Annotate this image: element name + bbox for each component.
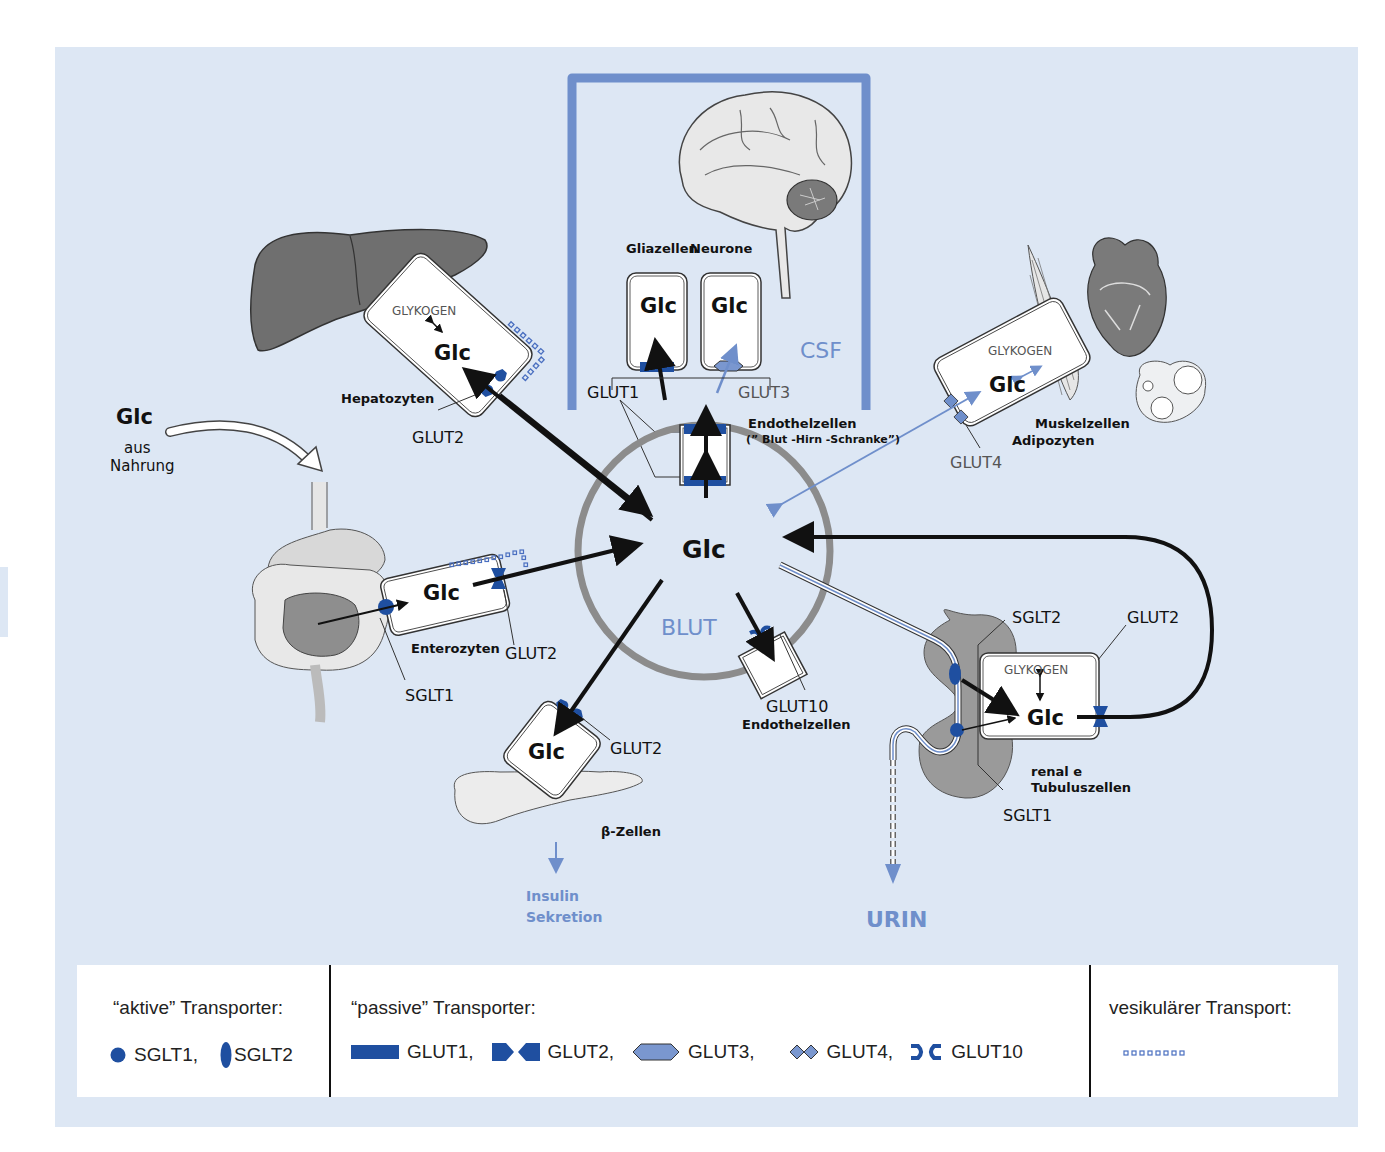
dotted-squares-icon: [1123, 1050, 1189, 1056]
bowtie-icon: [492, 1043, 540, 1061]
enterocyte-label: Enterozyten: [411, 642, 500, 655]
adipocyte-label: Adipozyten: [1012, 434, 1094, 447]
neuron-glucose-label: Glc: [711, 296, 748, 317]
glia-glucose-label: Glc: [640, 296, 677, 317]
muscle-glycogen-label: GLYKOGEN: [988, 345, 1052, 357]
glia-label: Gliazellen: [626, 242, 698, 255]
legend-vesicular-section: vesikulärer Transport:: [1091, 965, 1338, 1097]
liver-glucose-label: Glc: [434, 343, 471, 364]
renal-cell-label-line2: Tubuluszellen: [1031, 781, 1131, 794]
neuron-label: Neurone: [690, 242, 752, 255]
muscle-glucose-label: Glc: [989, 375, 1026, 396]
legend-box: “aktive” Transporter: SGLT1, SGLT2 “pass…: [77, 965, 1338, 1097]
food-source-line1: aus: [124, 441, 151, 456]
glut3-label: GLUT3: [738, 385, 790, 401]
sglt1-transporter-icon: [950, 723, 964, 737]
endothel-label: Endothelzellen: [748, 417, 856, 430]
glut4-label: GLUT4: [950, 455, 1002, 471]
pancreas-glut2-label: GLUT2: [610, 741, 662, 757]
muscle-adipocyte-cell: [931, 295, 1094, 430]
legend-vesicular-row: [1123, 1050, 1189, 1056]
legend-passive-section: “passive” Transporter: GLUT1, GLUT2, GLU…: [331, 965, 1089, 1097]
enterocyte-sglt1-label: SGLT1: [405, 688, 454, 704]
legend-passive-title: “passive” Transporter:: [351, 997, 536, 1019]
liver-glycogen-label: GLYKOGEN: [392, 305, 456, 317]
rectangle-icon: [351, 1045, 399, 1059]
ellipse-icon: [220, 1041, 232, 1069]
beta-cell-glucose-label: Glc: [528, 742, 565, 763]
muscle-cell-label: Muskelzellen: [1035, 417, 1130, 430]
legend-active-row: SGLT1, SGLT2: [110, 1041, 315, 1069]
legend-active-section: “aktive” Transporter: SGLT1, SGLT2: [77, 965, 329, 1097]
legend-vesicular-title: vesikulärer Transport:: [1109, 997, 1292, 1019]
glut10-label: GLUT10: [766, 699, 828, 715]
glut10-endothel-label: Endothelzellen: [742, 718, 850, 731]
glut1-label: GLUT1: [587, 385, 639, 401]
legend-item-glut3: GLUT3,: [632, 1041, 755, 1063]
legend-item-glut2: GLUT2,: [492, 1041, 615, 1063]
double-diamond-icon: [789, 1044, 819, 1060]
kidney-glucose-label: Glc: [1027, 708, 1064, 729]
brain-illustration-icon: [679, 92, 851, 298]
csf-label: CSF: [800, 340, 842, 362]
blood-glucose-label: Glc: [682, 537, 726, 562]
glut10-endothelial-cell: [739, 632, 807, 699]
kidney-sglt2-label: SGLT2: [1012, 610, 1061, 626]
bracket-pair-icon: [909, 1043, 943, 1061]
beta-cell-label: β-Zellen: [601, 825, 661, 838]
legend-item-glut4: GLUT4,: [789, 1041, 894, 1063]
legend-item-glut10: GLUT10: [909, 1041, 1023, 1063]
legend-item-sglt2: SGLT2: [220, 1041, 293, 1069]
enterocyte-glut2-label: GLUT2: [505, 646, 557, 662]
renal-cell-label-line1: renal e: [1031, 765, 1082, 778]
enterocyte-glucose-label: Glc: [423, 583, 460, 604]
circle-icon: [110, 1047, 126, 1063]
legend-passive-row: GLUT1, GLUT2, GLUT3, GLUT4, GLUT10: [351, 1041, 1045, 1063]
sglt2-transporter-icon: [949, 663, 961, 685]
legend-item-sglt1: SGLT1,: [110, 1044, 198, 1066]
insulin-label-line1: Insulin: [526, 889, 579, 903]
legend-active-title: “aktive” Transporter:: [113, 997, 283, 1019]
neuron-cell: [701, 273, 761, 393]
glut1-transporter-icon: [640, 362, 674, 372]
kidney-glut2-label: GLUT2: [1127, 610, 1179, 626]
liver-glut2-label: GLUT2: [412, 430, 464, 446]
bbb-label: (” Blut -Hirn -Schranke”): [746, 434, 900, 445]
urine-label: URIN: [866, 909, 927, 931]
food-source-line2: Nahrung: [110, 459, 175, 474]
kidney-sglt1-label: SGLT1: [1003, 808, 1052, 824]
hepatocyte-label: Hepatozyten: [341, 392, 434, 405]
adipocyte-illustration-icon: [1136, 361, 1206, 422]
glia-cell: [627, 273, 687, 400]
urine-arrow-head-icon: [885, 864, 901, 884]
kidney-glycogen-label: GLYKOGEN: [1004, 664, 1068, 676]
bbb-endothelial-cell: [680, 412, 730, 498]
food-glucose-label: Glc: [116, 407, 153, 428]
blood-label: BLUT: [661, 617, 717, 639]
intestine-illustration-icon: [252, 482, 390, 722]
hexagon-icon: [632, 1043, 680, 1061]
legend-item-glut1: GLUT1,: [351, 1041, 474, 1063]
heart-illustration-icon: [1088, 238, 1166, 356]
insulin-label-line2: Sekretion: [526, 910, 602, 924]
